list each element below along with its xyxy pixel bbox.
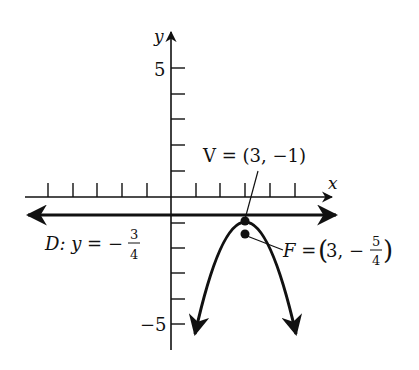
- focus-point: [241, 230, 250, 239]
- y-ticks: [171, 68, 185, 324]
- svg-text:4: 4: [372, 253, 380, 268]
- svg-text:4: 4: [130, 247, 138, 262]
- vertex-leader-line: [245, 171, 258, 219]
- focus-label: F = ( 3, − 5 4 ): [282, 234, 393, 268]
- svg-text:F =: F =: [282, 240, 316, 261]
- svg-text:3: 3: [130, 227, 138, 242]
- y-tick-label-neg5: −5: [140, 314, 167, 335]
- vertex-label: V = (3, −1): [202, 145, 306, 166]
- parabola-graph: y x 5 −5 V = (3, −1) F = ( 3, − 5 4 ) D:…: [0, 0, 419, 370]
- svg-text:): ): [383, 235, 393, 265]
- svg-text:5: 5: [372, 234, 380, 249]
- x-axis-label: x: [328, 173, 338, 193]
- parabola-curve: [195, 222, 296, 334]
- y-tick-label-5: 5: [154, 59, 165, 80]
- y-axis-label: y: [153, 26, 164, 46]
- svg-text:D: y = −: D: y = −: [44, 233, 123, 254]
- directrix-label: D: y = − 3 4: [44, 227, 140, 262]
- svg-text:3, −: 3, −: [326, 240, 364, 261]
